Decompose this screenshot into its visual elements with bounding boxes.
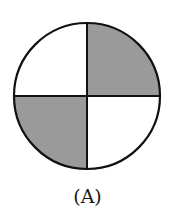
quadrant-circle-figure: (A) bbox=[0, 0, 171, 217]
figure-label: (A) bbox=[0, 184, 171, 208]
